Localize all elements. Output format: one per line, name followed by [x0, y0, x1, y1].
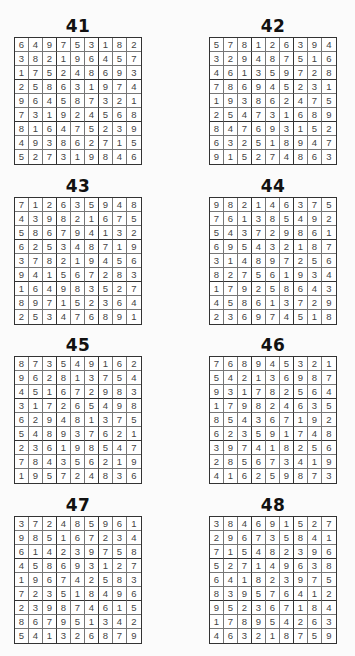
grid-cell: 6 — [224, 66, 238, 80]
grid-cell: 7 — [252, 226, 266, 240]
grid-cell: 9 — [280, 226, 294, 240]
grid-cell: 6 — [224, 357, 238, 371]
grid-cell: 3 — [127, 385, 141, 399]
grid-cell: 3 — [238, 427, 252, 441]
grid-cell: 2 — [224, 52, 238, 66]
grid-cell: 6 — [308, 150, 322, 164]
grid-cell: 1 — [29, 545, 43, 559]
grid-cell: 3 — [280, 573, 294, 587]
grid-cell: 5 — [252, 268, 266, 282]
grid-cell: 5 — [210, 226, 224, 240]
grid-cell: 6 — [85, 455, 99, 469]
grid-cell: 8 — [99, 310, 113, 324]
grid-cell: 4 — [224, 122, 238, 136]
grid-cell: 6 — [266, 601, 280, 615]
puzzle-number: 45 — [14, 336, 142, 354]
grid-cell: 5 — [308, 629, 322, 643]
grid-cell: 1 — [113, 240, 127, 254]
grid-cell: 6 — [29, 615, 43, 629]
grid-cell: 9 — [210, 150, 224, 164]
grid-cell: 2 — [322, 413, 336, 427]
grid-cell: 1 — [71, 254, 85, 268]
grid-cell: 1 — [113, 601, 127, 615]
grid-cell: 7 — [127, 441, 141, 455]
grid-cell: 5 — [238, 545, 252, 559]
grid-cell: 3 — [127, 66, 141, 80]
grid-cell: 4 — [266, 80, 280, 94]
grid-cell: 9 — [252, 357, 266, 371]
grid-cell: 8 — [57, 136, 71, 150]
grid-cell: 8 — [238, 615, 252, 629]
grid-cell: 5 — [322, 198, 336, 212]
grid-cell: 5 — [294, 52, 308, 66]
grid-cell: 8 — [294, 226, 308, 240]
grid-cell: 5 — [15, 150, 29, 164]
grid-cell: 8 — [43, 559, 57, 573]
grid-cell: 2 — [224, 427, 238, 441]
grid-cell: 9 — [43, 212, 57, 226]
grid-cell: 2 — [113, 559, 127, 573]
grid-cell: 1 — [280, 517, 294, 531]
puzzle-45: 45 8735491629628137544516729833172654986… — [14, 356, 142, 484]
grid-cell: 7 — [71, 122, 85, 136]
grid-cell: 3 — [113, 122, 127, 136]
grid-cell: 8 — [252, 254, 266, 268]
grid-cell: 4 — [15, 385, 29, 399]
grid-cell: 4 — [99, 52, 113, 66]
grid-cell: 9 — [294, 371, 308, 385]
grid-cell: 8 — [322, 310, 336, 324]
grid-cell: 1 — [238, 66, 252, 80]
grid-cell: 7 — [85, 531, 99, 545]
grid-cell: 5 — [322, 399, 336, 413]
grid-cell: 6 — [322, 545, 336, 559]
grid-cell: 3 — [99, 296, 113, 310]
grid-cell: 4 — [322, 385, 336, 399]
grid-cell: 3 — [252, 601, 266, 615]
grid-cell: 7 — [29, 357, 43, 371]
grid-cell: 8 — [224, 517, 238, 531]
grid-cell: 8 — [85, 441, 99, 455]
grid-cell: 5 — [252, 587, 266, 601]
grid-cell: 1 — [308, 310, 322, 324]
grid-cell: 3 — [15, 517, 29, 531]
grid-cell: 9 — [308, 212, 322, 226]
grid-cell: 1 — [308, 52, 322, 66]
grid-cell: 5 — [224, 296, 238, 310]
grid-cell: 4 — [43, 94, 57, 108]
grid-cell: 9 — [15, 268, 29, 282]
grid-cell: 6 — [210, 573, 224, 587]
grid-cell: 5 — [127, 601, 141, 615]
grid-cell: 8 — [15, 296, 29, 310]
grid-cell: 4 — [85, 108, 99, 122]
grid-cell: 4 — [322, 38, 336, 52]
grid-cell: 5 — [15, 427, 29, 441]
grid-cell: 3 — [322, 469, 336, 483]
grid-cell: 6 — [238, 310, 252, 324]
grid-cell: 1 — [127, 94, 141, 108]
grid-cell: 1 — [15, 469, 29, 483]
grid-cell: 2 — [99, 268, 113, 282]
grid-cell: 1 — [43, 108, 57, 122]
grid-cell: 1 — [238, 573, 252, 587]
grid-cell: 8 — [294, 469, 308, 483]
grid-cell: 4 — [210, 296, 224, 310]
grid-cell: 6 — [43, 122, 57, 136]
grid-cell: 6 — [238, 531, 252, 545]
grid-cell: 4 — [294, 455, 308, 469]
grid-cell: 9 — [294, 573, 308, 587]
grid-cell: 2 — [127, 357, 141, 371]
grid-cell: 8 — [113, 573, 127, 587]
grid-cell: 9 — [238, 399, 252, 413]
grid-cell: 2 — [127, 38, 141, 52]
grid-cell: 3 — [99, 615, 113, 629]
grid-cell: 8 — [280, 136, 294, 150]
grid-cell: 8 — [322, 427, 336, 441]
grid-cell: 4 — [15, 136, 29, 150]
grid-cell: 1 — [85, 615, 99, 629]
grid-cell: 7 — [294, 427, 308, 441]
grid-cell: 4 — [280, 150, 294, 164]
grid-cell: 6 — [266, 268, 280, 282]
grid-cell: 5 — [280, 80, 294, 94]
grid-cell: 6 — [57, 559, 71, 573]
grid-cell: 3 — [252, 66, 266, 80]
